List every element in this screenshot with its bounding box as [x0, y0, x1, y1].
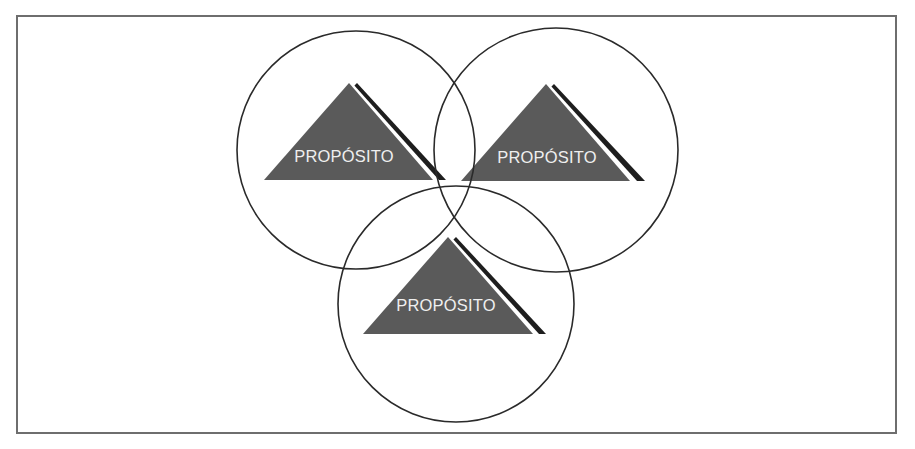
pyramid-right: PROPÓSITO: [461, 84, 645, 181]
pyramid-body: [461, 84, 630, 181]
pyramid-body: [363, 237, 533, 334]
pyramid-label: PROPÓSITO: [396, 296, 496, 314]
pyramid-body: [264, 83, 433, 180]
pyramid-label: PROPÓSITO: [294, 147, 394, 165]
venn-diagram: PROPÓSITO PROPÓSITO PROPÓSITO: [0, 0, 915, 449]
pyramid-bottom: PROPÓSITO: [363, 237, 546, 334]
pyramid-left: PROPÓSITO: [264, 83, 446, 180]
pyramid-label: PROPÓSITO: [497, 148, 597, 166]
